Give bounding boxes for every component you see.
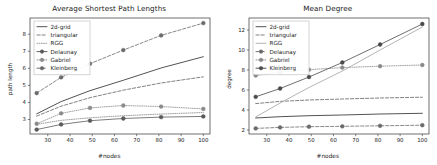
- svg-text:2: 2: [241, 127, 244, 133]
- legend-label: RGG: [269, 40, 282, 46]
- legend-label: Kleinberg: [269, 65, 296, 72]
- svg-text:7: 7: [23, 48, 26, 54]
- legend-label: Kleinberg: [51, 65, 78, 72]
- svg-text:50: 50: [89, 137, 96, 143]
- svg-text:100: 100: [198, 137, 209, 143]
- svg-text:5: 5: [23, 82, 26, 88]
- legend-label: Delaunay: [51, 49, 78, 56]
- legend-label: Gabriel: [269, 57, 290, 63]
- svg-text:30: 30: [44, 137, 51, 143]
- svg-text:70: 70: [352, 137, 359, 143]
- legend-label: Delaunay: [269, 49, 296, 56]
- svg-text:70: 70: [133, 137, 140, 143]
- legend-label: triangular: [51, 32, 79, 39]
- legend-label: 2d-grid: [51, 24, 72, 31]
- svg-text:4: 4: [241, 107, 245, 113]
- left-chart-panel: Average Shortest Path Lengths path lengt…: [0, 0, 219, 165]
- right-chart-plot: 30405060708090100246810122d-gridtriangul…: [219, 0, 437, 165]
- svg-text:50: 50: [307, 137, 314, 143]
- svg-text:80: 80: [374, 137, 381, 143]
- legend-label: RGG: [51, 40, 64, 46]
- legend-label: Gabriel: [51, 57, 72, 63]
- svg-text:4: 4: [23, 99, 27, 105]
- svg-text:8: 8: [241, 67, 245, 73]
- svg-text:60: 60: [330, 137, 337, 143]
- svg-text:90: 90: [178, 137, 185, 143]
- svg-text:60: 60: [111, 137, 118, 143]
- legend-label: 2d-grid: [269, 24, 290, 31]
- svg-text:90: 90: [396, 137, 403, 143]
- right-chart-panel: Mean Degree degree #nodes 30405060708090…: [219, 0, 437, 165]
- svg-text:3: 3: [23, 116, 26, 122]
- svg-text:6: 6: [23, 65, 27, 71]
- svg-text:8: 8: [23, 31, 27, 37]
- svg-text:6: 6: [241, 87, 245, 93]
- svg-text:80: 80: [155, 137, 162, 143]
- svg-text:40: 40: [67, 137, 74, 143]
- svg-text:10: 10: [238, 47, 245, 53]
- svg-text:30: 30: [263, 137, 270, 143]
- legend-label: triangular: [269, 32, 297, 39]
- figure-container: Average Shortest Path Lengths path lengt…: [0, 0, 437, 165]
- left-chart-plot: 304050607080901003456782d-gridtriangular…: [0, 0, 219, 165]
- svg-text:100: 100: [417, 137, 428, 143]
- svg-text:40: 40: [285, 137, 292, 143]
- svg-text:12: 12: [238, 27, 245, 33]
